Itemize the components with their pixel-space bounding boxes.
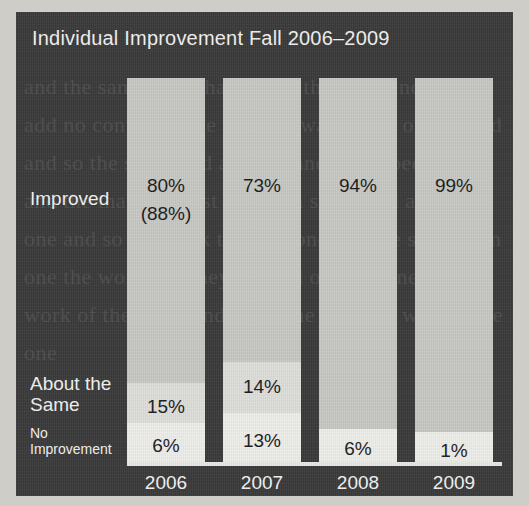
bar-2009-segment-improved: 99% — [415, 78, 493, 432]
category-label-about-line1: About the — [30, 373, 111, 394]
bar-2007-improved-value: 73% — [223, 174, 301, 197]
bar-2009[interactable]: 99% 1% — [415, 78, 493, 464]
chart-title: Individual Improvement Fall 2006–2009 — [32, 27, 390, 50]
x-tick-label-2006: 2006 — [127, 472, 205, 494]
page-root: and the same time that one of the most a… — [0, 0, 529, 506]
bar-2007-segment-improved: 73% — [223, 78, 301, 362]
bar-2006[interactable]: 80% (88%) 15% 6% — [127, 78, 205, 464]
category-label-noimp-line2: Improvement — [30, 441, 112, 457]
bar-2007-segment-about: 14% — [223, 362, 301, 413]
category-label-improved: Improved — [30, 188, 109, 210]
bar-2008-improved-value: 94% — [319, 174, 397, 197]
plot-area: 80% (88%) 15% 6% 73% 14% 13% — [16, 12, 513, 496]
category-label-no-improvement: No Improvement — [30, 425, 112, 457]
bar-2009-noimp-value: 1% — [415, 439, 493, 462]
x-axis-line — [127, 462, 502, 466]
bar-2007-about-value: 14% — [223, 375, 301, 398]
x-tick-label-2007: 2007 — [223, 472, 301, 494]
category-label-about-the-same: About the Same — [30, 373, 111, 415]
bar-2006-noimp-value: 6% — [127, 434, 205, 457]
category-label-noimp-line1: No — [30, 425, 112, 441]
bar-2009-improved-value: 99% — [415, 174, 493, 197]
bar-2006-segment-about: 15% — [127, 383, 205, 424]
bar-2006-improved-value: 80% — [127, 174, 205, 197]
bar-2008-noimp-value: 6% — [319, 437, 397, 460]
bar-2006-segment-improved: 80% (88%) — [127, 78, 205, 383]
bar-2007-noimp-value: 13% — [223, 429, 301, 452]
bar-2008-segment-improved: 94% — [319, 78, 397, 429]
bar-2007-segment-no-improvement: 13% — [223, 413, 301, 464]
bar-2009-segment-no-improvement: 1% — [415, 432, 493, 464]
category-label-about-line2: Same — [30, 394, 111, 415]
bar-2008[interactable]: 94% 6% — [319, 78, 397, 464]
chart-panel: and the same time that one of the most a… — [16, 12, 513, 496]
x-tick-label-2009: 2009 — [415, 472, 493, 494]
bar-2006-segment-no-improvement: 6% — [127, 423, 205, 464]
bar-2006-about-value: 15% — [127, 395, 205, 418]
bar-2008-segment-no-improvement: 6% — [319, 429, 397, 464]
bar-2007[interactable]: 73% 14% 13% — [223, 78, 301, 464]
x-tick-label-2008: 2008 — [319, 472, 397, 494]
bar-2006-improved-subvalue: (88%) — [127, 202, 205, 225]
